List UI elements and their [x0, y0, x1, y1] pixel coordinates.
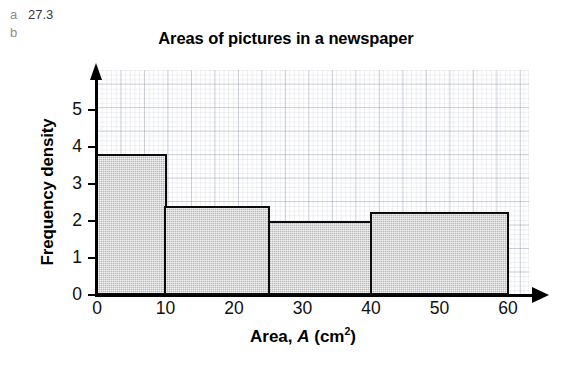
y-axis-title: Frequency density: [38, 77, 58, 307]
histogram-bar: [267, 221, 372, 295]
histogram-bar: [96, 154, 167, 295]
y-axis-tick-label: 1: [60, 247, 82, 268]
histogram-bar: [370, 212, 510, 295]
x-axis-tick-label: 10: [146, 298, 186, 319]
x-axis-title: Area, A (cm2): [97, 325, 509, 347]
x-axis-tick-label: 20: [214, 298, 254, 319]
y-axis-tick-label: 2: [60, 210, 82, 231]
y-axis-tick: [88, 220, 96, 223]
y-axis-tick-label: 3: [60, 173, 82, 194]
y-axis-tick: [88, 257, 96, 260]
y-axis-tick-label: 4: [60, 136, 82, 157]
x-axis-tick-label: 50: [420, 298, 460, 319]
y-axis-tick: [88, 109, 96, 112]
x-axis-title-prefix: Area,: [250, 327, 297, 346]
y-axis-tick: [88, 183, 96, 186]
x-axis-tick-label: 30: [283, 298, 323, 319]
x-axis-tick: [96, 287, 99, 295]
x-axis-tick-label: 0: [77, 298, 117, 319]
y-axis-tick: [88, 146, 96, 149]
x-axis-tick-label: 60: [488, 298, 528, 319]
x-axis-title-variable: A: [297, 327, 309, 346]
x-axis-tick-label: 40: [351, 298, 391, 319]
x-axis-title-units-open: (cm: [310, 327, 345, 346]
histogram-chart: Areas of pictures in a newspaper 012345 …: [0, 0, 572, 365]
x-axis-arrow-icon: [532, 287, 549, 303]
y-axis-tick-label: 5: [60, 99, 82, 120]
y-axis-arrow-icon: [90, 63, 102, 80]
x-axis-title-units-close: ): [350, 327, 356, 346]
histogram-bar: [164, 206, 269, 295]
